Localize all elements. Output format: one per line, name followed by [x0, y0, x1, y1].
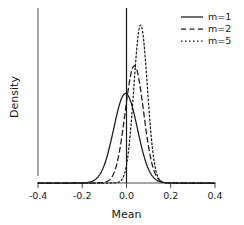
x-axis-title: Mean: [112, 208, 142, 221]
x-tick-label: 0.4: [207, 190, 222, 201]
x-tick-label: 0.0: [119, 190, 134, 201]
chart-canvas: -0.4 -0.2 0.0 0.2 0.4 Mean Density m=1 m…: [0, 0, 244, 225]
x-tick-label: -0.2: [73, 190, 92, 201]
legend-label-m5: m=5: [208, 35, 231, 46]
y-axis-title: Density: [8, 76, 21, 118]
legend-label-m1: m=1: [208, 11, 231, 22]
x-tick-label: 0.2: [163, 190, 178, 201]
density-plot-figure: -0.4 -0.2 0.0 0.2 0.4 Mean Density m=1 m…: [0, 0, 244, 225]
x-tick-label: -0.4: [29, 190, 48, 201]
legend: m=1 m=2 m=5: [181, 11, 231, 46]
x-axis-tick-labels: -0.4 -0.2 0.0 0.2 0.4: [29, 190, 223, 201]
legend-label-m2: m=2: [208, 23, 231, 34]
x-axis-ticks: [38, 183, 215, 188]
